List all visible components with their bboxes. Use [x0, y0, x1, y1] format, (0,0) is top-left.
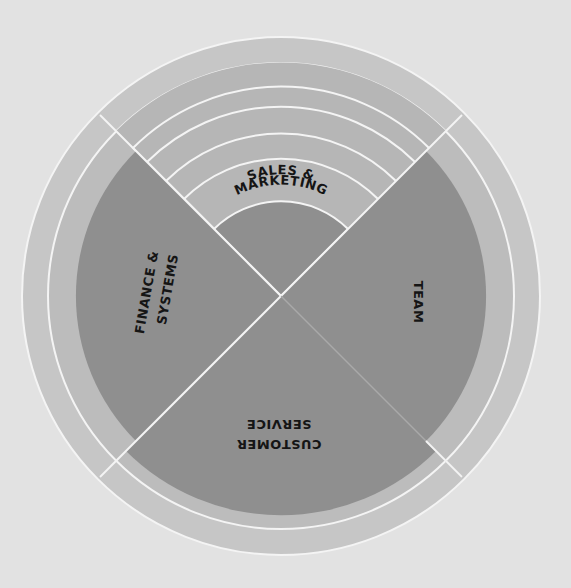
team-label: TEAM	[411, 281, 426, 324]
customer-service-label: CUSTOMER	[236, 437, 321, 452]
quadrant-diagram: SALES & MARKETING TEAM CUSTOMER SERVICE …	[0, 0, 571, 588]
customer-service-label: SERVICE	[246, 417, 311, 432]
